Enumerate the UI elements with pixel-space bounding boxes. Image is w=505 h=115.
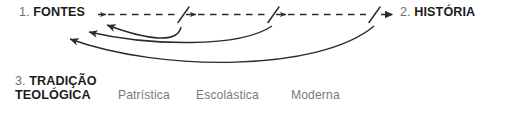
- node-historia-label: HISTÓRIA: [414, 5, 475, 19]
- node-fontes-number: 1.: [19, 5, 30, 19]
- node-tradicao-number: 3.: [15, 74, 26, 88]
- node-tradicao: 3. TRADIÇÃO TEOLÓGICA: [15, 74, 97, 102]
- node-historia-number: 2.: [400, 5, 411, 19]
- node-tradicao-label: TRADIÇÃO: [29, 74, 96, 88]
- return-curve-3: [70, 26, 374, 62]
- diagram-canvas: 1. FONTES 2. HISTÓRIA 3. TRADIÇÃO TEOLÓG…: [0, 0, 505, 115]
- node-historia: 2. HISTÓRIA: [400, 5, 475, 19]
- return-curve-group: [70, 25, 374, 62]
- period-label-moderna: Moderna: [291, 88, 340, 102]
- period-label-patristica: Patrística: [118, 88, 170, 102]
- node-fontes-label: FONTES: [33, 5, 85, 19]
- node-fontes: 1. FONTES: [19, 5, 85, 19]
- return-curve-1: [107, 25, 181, 38]
- slash-mark-3: [369, 7, 380, 23]
- period-label-escolastica: Escolástica: [196, 88, 259, 102]
- node-tradicao-label-line2: TEOLÓGICA: [15, 88, 97, 102]
